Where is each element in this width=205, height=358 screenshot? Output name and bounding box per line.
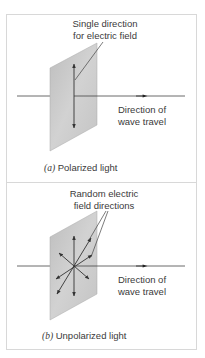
direction-line-2: wave travel xyxy=(113,116,171,128)
direction-line-2: wave travel xyxy=(113,286,171,298)
direction-line-1: Direction of xyxy=(113,104,171,116)
caption-letter: (b) xyxy=(42,331,53,341)
panel-a-graphic xyxy=(17,42,185,151)
wave-travel-label: Direction of wave travel xyxy=(113,104,171,128)
annotation-line-2: field directions xyxy=(66,200,142,212)
caption-text: Unpolarized light xyxy=(56,330,127,341)
panel-b-graphic xyxy=(17,211,185,320)
polarization-diagram xyxy=(0,0,205,358)
caption-polarized: (a) Polarized light xyxy=(44,162,117,174)
wave-travel-label: Direction of wave travel xyxy=(113,274,171,298)
caption-text: Polarized light xyxy=(58,162,118,173)
caption-letter: (a) xyxy=(44,163,55,173)
caption-unpolarized: (b) Unpolarized light xyxy=(42,330,126,342)
field-direction-annotation: Single direction for electric field xyxy=(67,18,143,42)
annotation-line-2: for electric field xyxy=(67,30,143,42)
direction-line-1: Direction of xyxy=(113,274,171,286)
annotation-line-1: Single direction xyxy=(67,18,143,30)
annotation-line-1: Random electric xyxy=(66,188,142,200)
random-field-annotation: Random electric field directions xyxy=(66,188,142,212)
